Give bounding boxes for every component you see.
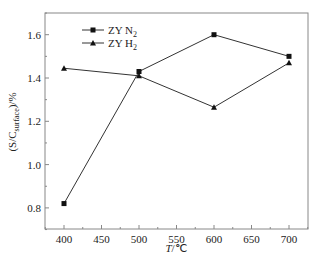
x-axis-label: T/℃ xyxy=(165,242,186,254)
square-marker-icon xyxy=(62,201,67,206)
triangle-marker-icon xyxy=(286,60,292,66)
x-tick-label: 700 xyxy=(281,233,298,245)
series-layer xyxy=(61,32,292,206)
x-tick-label: 500 xyxy=(131,233,148,245)
square-marker-icon xyxy=(287,54,292,59)
y-tick-label: 0.8 xyxy=(27,202,41,214)
x-tick-label: 600 xyxy=(206,233,223,245)
series-zy-h2 xyxy=(61,60,292,110)
y-tick-label: 1.0 xyxy=(27,159,41,171)
square-marker-icon xyxy=(212,32,217,37)
legend-label: ZY H2 xyxy=(108,37,137,52)
y-axis: 0.81.01.21.41.6 xyxy=(27,13,49,230)
legend-item-zy-h2: ZY H2 xyxy=(82,37,137,52)
x-tick-label: 400 xyxy=(56,233,73,245)
line-chart: 0.81.01.21.41.6 400450500550600650700 (S… xyxy=(0,0,318,266)
y-tick-label: 1.4 xyxy=(27,72,41,84)
triangle-marker-icon xyxy=(211,104,217,110)
legend: ZY N2 ZY H2 xyxy=(82,24,137,52)
series-zy-n2 xyxy=(62,32,292,206)
y-tick-label: 1.6 xyxy=(27,29,41,41)
x-tick-label: 650 xyxy=(243,233,260,245)
plot-frame xyxy=(45,13,308,229)
x-tick-label: 450 xyxy=(93,233,110,245)
square-marker-icon xyxy=(91,28,96,33)
y-tick-label: 1.2 xyxy=(27,115,41,127)
y-axis-label: (S/Csurface)/% xyxy=(6,92,21,151)
